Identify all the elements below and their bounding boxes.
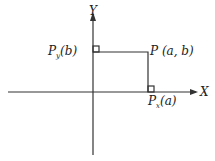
point-py-label: Py(b): [48, 45, 77, 62]
x-axis-arrow-icon: [190, 89, 198, 95]
point-px-label: Px(a): [148, 95, 177, 112]
coordinate-diagram: [0, 0, 215, 161]
y-axis-label: Y: [89, 5, 97, 17]
px-letter: P: [148, 94, 156, 108]
x-axis-label: X: [200, 86, 209, 98]
py-letter: P: [48, 44, 56, 58]
point-p-label: P (a, b): [150, 45, 194, 57]
py-argument: (b): [60, 44, 77, 58]
right-angle-marker-y: [93, 46, 99, 52]
px-argument: (a): [160, 94, 177, 108]
projection-lines: [93, 52, 148, 92]
right-angle-marker-x: [148, 86, 154, 92]
